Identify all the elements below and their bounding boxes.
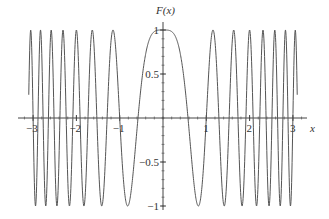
x-tick-label: 2 <box>247 122 253 134</box>
x-tick-label: 1 <box>203 122 209 134</box>
x-axis-label: x <box>309 122 315 134</box>
y-tick-label: 1 <box>154 24 160 36</box>
chart: −3−2−1123−1−0.50.51 F(x) x <box>0 0 329 219</box>
x-tick-label: −1 <box>113 122 125 134</box>
y-tick-label: −0.5 <box>139 156 159 168</box>
x-tick-label: 3 <box>290 122 296 134</box>
y-tick-label: 0.5 <box>145 68 159 80</box>
y-tick-label: −1 <box>147 200 159 212</box>
x-tick-label: −3 <box>26 122 38 134</box>
y-axis-label: F(x) <box>155 4 175 17</box>
x-tick-label: −2 <box>69 122 81 134</box>
